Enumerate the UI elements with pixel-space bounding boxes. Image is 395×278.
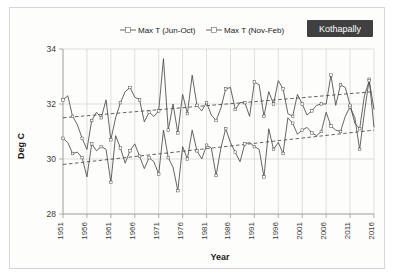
- marker-0-1965: [129, 149, 132, 152]
- y-tick-label-28: 28: [47, 209, 57, 219]
- marker-0-1979: [196, 149, 199, 152]
- marker-0-1951: [62, 137, 65, 140]
- marker-0-1963: [119, 147, 122, 150]
- marker-1-1961: [110, 138, 113, 141]
- marker-1-1971: [157, 110, 160, 113]
- marker-0-1995: [272, 148, 275, 151]
- marker-0-1973: [167, 156, 170, 159]
- legend-item-nov-feb: Max T (Nov-Feb): [206, 26, 284, 35]
- x-tick-label-1981: 1981: [200, 221, 209, 239]
- marker-1-1989: [244, 101, 247, 104]
- data-markers: [62, 74, 371, 192]
- marker-0-1977: [186, 158, 189, 161]
- marker-0-1955: [81, 156, 84, 159]
- marker-0-2005: [320, 130, 323, 133]
- x-tick-label-1951: 1951: [56, 221, 65, 239]
- y-tick-label-32: 32: [47, 99, 57, 109]
- marker-1-1957: [90, 119, 93, 122]
- marker-1-1993: [263, 115, 266, 118]
- marker-1-2015: [368, 79, 371, 82]
- x-tick-label-1956: 1956: [80, 221, 89, 239]
- marker-1-1953: [71, 115, 74, 118]
- marker-1-2011: [349, 104, 352, 107]
- marker-0-1969: [148, 156, 151, 159]
- marker-1-2009: [339, 83, 342, 86]
- x-tick-label-2001: 2001: [295, 221, 304, 239]
- station-badge-label: Kothapally: [319, 24, 362, 34]
- marker-0-1999: [291, 122, 294, 125]
- y-tick-label-34: 34: [47, 44, 57, 54]
- marker-0-1971: [157, 173, 160, 176]
- marker-1-2007: [330, 74, 333, 77]
- station-badge: Kothapally: [307, 20, 373, 37]
- marker-1-1979: [196, 104, 199, 107]
- x-axis-ticks: 1951195619611966197119761981198619911996…: [56, 214, 376, 240]
- x-tick-label-1996: 1996: [271, 221, 280, 239]
- marker-1-1983: [215, 119, 218, 122]
- marker-1-1963: [119, 101, 122, 104]
- marker-1-1951: [62, 99, 65, 102]
- marker-0-1953: [71, 152, 74, 155]
- marker-0-2003: [311, 132, 314, 135]
- marker-1-1995: [272, 103, 275, 106]
- marker-0-1975: [177, 189, 180, 192]
- y-tick-label-30: 30: [47, 154, 57, 164]
- marker-1-1991: [253, 81, 256, 84]
- marker-0-1989: [244, 143, 247, 146]
- x-tick-label-1976: 1976: [176, 221, 185, 239]
- marker-1-1981: [205, 101, 208, 104]
- marker-1-1973: [167, 129, 170, 132]
- marker-1-1999: [291, 115, 294, 118]
- marker-0-1983: [215, 174, 218, 177]
- marker-1-1997: [282, 88, 285, 91]
- marker-1-1955: [81, 137, 84, 140]
- y-axis-title: Deg C: [16, 133, 26, 160]
- marker-0-1961: [110, 181, 113, 184]
- temperature-line-chart: 28303234 1951195619611966197119761981198…: [10, 8, 384, 268]
- x-tick-label-1986: 1986: [223, 221, 232, 239]
- x-tick-label-1991: 1991: [247, 221, 256, 239]
- marker-1-1977: [186, 112, 189, 115]
- marker-0-1981: [205, 144, 208, 147]
- y-axis-ticks: 28303234: [47, 44, 63, 219]
- marker-0-1985: [224, 127, 227, 130]
- marker-1-2013: [358, 127, 361, 130]
- marker-0-2007: [330, 125, 333, 128]
- marker-1-1967: [138, 99, 141, 102]
- chart-frame: 28303234 1951195619611966197119761981198…: [9, 7, 385, 269]
- x-tick-label-2011: 2011: [343, 221, 352, 239]
- x-tick-label-1971: 1971: [152, 221, 161, 239]
- marker-0-1991: [253, 145, 256, 148]
- x-tick-label-1966: 1966: [128, 221, 137, 239]
- legend-marker-jun-oct: [126, 28, 131, 33]
- marker-0-1967: [138, 155, 141, 158]
- x-axis-title: Year: [210, 252, 230, 262]
- marker-0-2013: [358, 148, 361, 151]
- legend-item-jun-oct: Max T (Jun-Oct): [120, 26, 196, 35]
- marker-1-1987: [234, 108, 237, 111]
- marker-1-2003: [311, 110, 314, 113]
- marker-1-1965: [129, 86, 132, 89]
- marker-1-2005: [320, 103, 323, 106]
- marker-1-2001: [301, 103, 304, 106]
- marker-1-1959: [100, 116, 103, 119]
- x-tick-label-1961: 1961: [104, 221, 113, 239]
- marker-0-1993: [263, 176, 266, 179]
- legend-marker-nov-feb: [212, 28, 217, 33]
- marker-0-1987: [234, 151, 237, 154]
- marker-0-2001: [301, 129, 304, 132]
- legend-label-jun-oct: Max T (Jun-Oct): [138, 26, 196, 35]
- marker-1-1975: [177, 132, 180, 135]
- marker-0-1959: [100, 145, 103, 148]
- data-series: [63, 59, 374, 191]
- x-tick-label-2006: 2006: [319, 221, 328, 239]
- legend-label-nov-feb: Max T (Nov-Feb): [224, 26, 284, 35]
- marker-0-1997: [282, 152, 285, 155]
- marker-0-2009: [339, 130, 342, 133]
- marker-0-1957: [90, 143, 93, 146]
- marker-1-1969: [148, 111, 151, 114]
- x-tick-label-2016: 2016: [367, 221, 376, 239]
- marker-1-1985: [224, 88, 227, 91]
- chart-legend: Max T (Jun-Oct) Max T (Nov-Feb): [120, 26, 284, 35]
